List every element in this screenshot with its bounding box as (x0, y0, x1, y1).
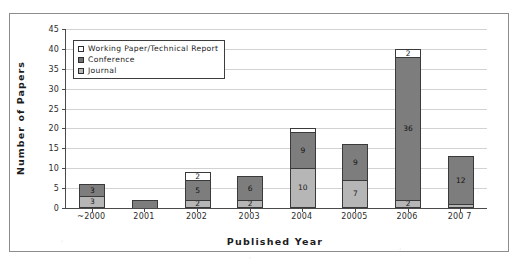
stacked-bar[interactable]: 910 (290, 128, 316, 208)
bar-value-label: 5 (195, 187, 200, 195)
bar-segment[interactable]: 9 (342, 144, 368, 180)
bar-segment[interactable]: 10 (290, 168, 316, 208)
bar-segment[interactable]: 7 (342, 180, 368, 208)
y-tick-label: 15 (48, 144, 59, 153)
y-tick-label: 35 (48, 64, 59, 73)
x-tick-label: 2002 (182, 212, 212, 221)
bar-value-label: 3 (90, 187, 95, 195)
x-tick-label: 2001 (129, 212, 159, 221)
legend-item-label: Working Paper/Technical Report (88, 44, 218, 53)
legend-item[interactable]: Journal (78, 66, 218, 75)
x-axis-title: Published Year (227, 236, 323, 247)
stacked-bar[interactable]: 252 (185, 172, 211, 208)
bar-segment[interactable]: 2 (395, 49, 421, 57)
bar-value-label: 6 (248, 185, 253, 193)
bar-group[interactable]: 12 (446, 29, 476, 208)
stacked-bar[interactable] (132, 200, 158, 208)
stacked-bar[interactable]: 33 (79, 184, 105, 208)
x-axis-tick-labels: ~20002001200220032004200052006200 7 (65, 212, 486, 221)
bar-segment[interactable]: 9 (290, 132, 316, 168)
stacked-bar[interactable]: 97 (342, 144, 368, 208)
bar-value-label: 2 (195, 173, 200, 180)
y-axis-title: Number of Papers (15, 61, 26, 175)
y-tick-label: 45 (48, 25, 59, 34)
white-square-icon (78, 46, 84, 52)
bar-value-label: 7 (353, 190, 358, 198)
bar-segment[interactable]: 12 (448, 156, 474, 204)
bar-segment[interactable] (132, 200, 158, 208)
x-tick-label: 2004 (287, 212, 317, 221)
bar-segment[interactable]: 2 (395, 200, 421, 208)
bar-segment[interactable]: 3 (79, 184, 105, 196)
dark-gray-square-icon (78, 57, 84, 63)
bar-value-label: 3 (90, 198, 95, 206)
legend-item[interactable]: Working Paper/Technical Report (78, 44, 218, 53)
x-tick-label: ~2000 (76, 212, 106, 221)
bar-value-label: 2 (406, 200, 411, 208)
legend-item-label: Journal (88, 66, 117, 75)
bar-group[interactable]: 910 (288, 29, 318, 208)
bar-segment[interactable]: 36 (395, 57, 421, 200)
y-tick-label: 30 (48, 84, 59, 93)
bar-value-label: 10 (298, 184, 308, 192)
y-tick-label: 5 (54, 184, 59, 193)
bar-group[interactable]: 62 (235, 29, 265, 208)
bar-group[interactable]: 97 (340, 29, 370, 208)
bar-segment[interactable]: 6 (237, 176, 263, 200)
x-tick-label: 200 7 (445, 212, 475, 221)
bar-segment[interactable]: 2 (185, 200, 211, 208)
y-tick-label: 20 (48, 124, 59, 133)
y-tick-mark (62, 208, 66, 209)
bar-value-label: 2 (406, 50, 411, 57)
bar-segment[interactable]: 2 (237, 200, 263, 208)
bar-value-label: 12 (456, 177, 466, 185)
y-tick-label: 0 (54, 204, 59, 213)
y-tick-label: 10 (48, 164, 59, 173)
bar-value-label: 9 (300, 147, 305, 155)
stacked-bar[interactable]: 12 (448, 156, 474, 208)
chart-page: Number of Papers Published Year 45403530… (0, 0, 520, 274)
x-tick-label: 2006 (392, 212, 422, 221)
light-gray-square-icon (78, 68, 84, 74)
bar-value-label: 2 (248, 200, 253, 208)
legend-item-label: Conference (88, 55, 135, 64)
bar-segment[interactable]: 3 (79, 196, 105, 208)
y-tick-label: 40 (48, 44, 59, 53)
bar-value-label: 9 (353, 159, 358, 167)
x-tick-label: 2003 (234, 212, 264, 221)
stacked-bar[interactable]: 2362 (395, 49, 421, 208)
legend-item[interactable]: Conference (78, 55, 218, 64)
x-tick-label: 20005 (339, 212, 369, 221)
chart-legend: Working Paper/Technical ReportConference… (73, 40, 225, 79)
bar-group[interactable]: 2362 (393, 29, 423, 208)
bar-segment[interactable]: 5 (185, 180, 211, 200)
bar-value-label: 36 (403, 125, 413, 133)
y-tick-label: 25 (48, 104, 59, 113)
bar-value-label: 2 (195, 200, 200, 208)
stacked-bar[interactable]: 62 (237, 176, 263, 208)
bar-segment[interactable]: 2 (185, 172, 211, 180)
